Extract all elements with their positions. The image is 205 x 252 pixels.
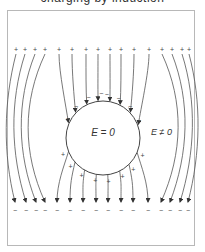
- negative-charge: −: [146, 207, 150, 214]
- negative-charge: −: [159, 207, 163, 214]
- positive-charge: +: [180, 46, 184, 53]
- induced-negative-charge: −: [74, 103, 78, 110]
- field-line: [14, 54, 26, 202]
- positive-charge: +: [43, 46, 47, 53]
- negative-charge: −: [43, 207, 47, 214]
- induced-negative-charge: −: [137, 117, 141, 124]
- outside-field-label: E ≠ 0: [151, 127, 172, 137]
- positive-charge: +: [57, 46, 61, 53]
- positive-charge: +: [132, 46, 136, 53]
- inside-field-label: E = 0: [91, 127, 115, 138]
- induced-negative-charge: −: [99, 90, 103, 97]
- field-line: [137, 152, 148, 202]
- negative-charge: −: [131, 207, 135, 214]
- induced-negative-charge: −: [116, 95, 120, 102]
- negative-charge: −: [55, 207, 59, 214]
- field-line: [28, 54, 45, 202]
- field-line: [180, 54, 192, 202]
- positive-charge: +: [14, 46, 18, 53]
- positive-charge: +: [70, 46, 74, 53]
- positive-charge: +: [170, 46, 174, 53]
- positive-charge: +: [96, 46, 100, 53]
- field-line: [57, 151, 69, 202]
- induced-positive-charge: +: [93, 177, 97, 184]
- induced-positive-charge: +: [120, 173, 124, 180]
- induced-negative-charge: −: [87, 94, 91, 101]
- electric-field-diagram: ++++++++++++++++−−−−−−−−−−−−−−−−−+−+−+−+…: [0, 0, 205, 252]
- negative-charge: −: [34, 207, 38, 214]
- negative-charge: −: [94, 207, 98, 214]
- conducting-sphere: [66, 101, 140, 175]
- induced-positive-charge: +: [131, 166, 135, 173]
- negative-charge: −: [119, 207, 123, 214]
- induced-positive-charge: +: [141, 152, 145, 159]
- induced-positive-charge: +: [68, 163, 72, 170]
- negative-charge: −: [68, 207, 72, 214]
- positive-charge: +: [108, 46, 112, 53]
- field-line: [170, 54, 185, 202]
- negative-charge: −: [168, 207, 172, 214]
- induced-positive-charge: +: [107, 178, 111, 185]
- induced-negative-charge: −: [105, 91, 109, 98]
- induced-positive-charge: +: [61, 151, 65, 158]
- field-line: [138, 54, 149, 124]
- positive-charge: +: [147, 46, 151, 53]
- induced-negative-charge: −: [128, 103, 132, 110]
- negative-charge: −: [186, 207, 190, 214]
- negative-charge: −: [178, 207, 182, 214]
- negative-charge: −: [106, 207, 110, 214]
- field-line: [188, 54, 198, 202]
- positive-charge: +: [23, 46, 27, 53]
- induced-positive-charge: +: [80, 172, 84, 179]
- negative-charge: −: [24, 207, 28, 214]
- field-line: [6, 54, 16, 202]
- positive-charge: +: [187, 46, 191, 53]
- positive-charge: +: [33, 46, 37, 53]
- negative-charge: −: [81, 207, 85, 214]
- positive-charge: +: [160, 46, 164, 53]
- negative-charge: −: [13, 207, 17, 214]
- induced-negative-charge: −: [66, 115, 70, 122]
- field-line: [59, 54, 68, 122]
- positive-charge: +: [84, 46, 88, 53]
- positive-charge: +: [119, 46, 123, 53]
- field-line: [21, 54, 36, 202]
